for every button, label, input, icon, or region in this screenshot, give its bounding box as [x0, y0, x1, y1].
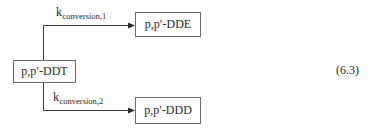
node-ddd: p,p′-DDD: [135, 97, 201, 124]
equation-number: (6.3): [336, 63, 359, 78]
node-ddt: p,p′-DDT: [13, 60, 76, 83]
node-ddd-label: p,p′-DDD: [144, 103, 192, 118]
node-dde-label: p,p′-DDE: [145, 17, 191, 32]
rate-constant-2-symbol: k: [53, 90, 59, 104]
rate-constant-2: kconversion,2: [53, 91, 103, 103]
arrow-to-dde: [44, 26, 135, 61]
rate-constant-2-subscript: conversion,2: [60, 96, 104, 106]
node-ddt-label: p,p′-DDT: [21, 64, 67, 79]
node-dde: p,p′-DDE: [135, 12, 201, 37]
rate-constant-1-symbol: k: [56, 5, 62, 19]
rate-constant-1: kconversion,1: [56, 6, 106, 18]
rate-constant-1-subscript: conversion,1: [63, 11, 107, 21]
